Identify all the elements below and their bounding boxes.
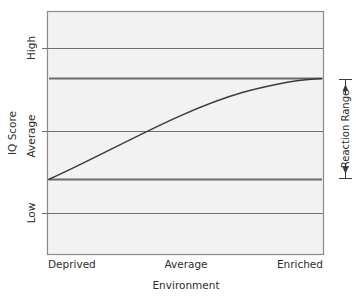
x-tick-label-deprived: Deprived [48,258,96,270]
x-tick-label-average: Average [164,258,207,270]
y-axis-title: IQ Score [6,111,18,155]
x-tick-label-enriched: Enriched [277,258,323,270]
iq-reaction-range-chart: High Average Low IQ Score Deprived Avera… [0,0,362,296]
y-tick-label-average: Average [25,114,37,157]
x-axis-title: Environment [152,279,219,291]
reaction-range-label: Reaction Range [340,90,351,168]
y-tick-label-high: High [25,36,37,60]
y-tick-label-low: Low [25,202,37,223]
plot-area-background [48,12,324,255]
chart-figure: High Average Low IQ Score Deprived Avera… [0,0,362,296]
